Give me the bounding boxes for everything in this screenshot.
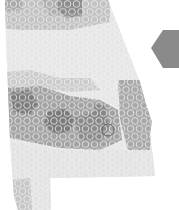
side-hexagon-shape — [151, 30, 179, 68]
state-alabama — [0, 0, 179, 210]
hexbin-map[interactable] — [0, 0, 179, 210]
